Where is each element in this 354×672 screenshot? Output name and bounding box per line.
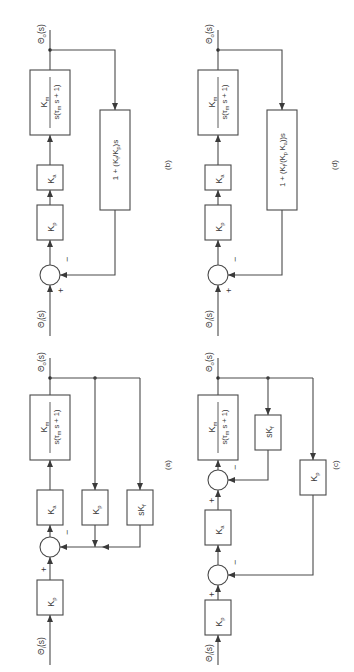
panel-d: Θi(s) Θo(s) + − Kp Ka Km s(τm s + 1) 1 +… <box>198 24 339 336</box>
minus-sign: − <box>230 465 240 470</box>
block-kp <box>37 205 63 240</box>
block-ka <box>37 490 63 525</box>
input-label: Θi(s) <box>204 644 215 662</box>
input-label: Θi(s) <box>36 310 47 328</box>
block-ka <box>205 510 231 545</box>
arrow-icon <box>228 272 235 278</box>
feedback-line <box>60 525 140 547</box>
tf-denominator: s(τm s + 1) <box>220 409 230 444</box>
arrow-icon <box>215 190 221 197</box>
plus-sign: + <box>207 592 217 597</box>
arrow-icon <box>47 190 53 197</box>
block-kp <box>205 600 231 635</box>
arrow-icon <box>215 545 221 552</box>
arrow-icon <box>92 483 98 490</box>
feedback-line <box>228 495 313 575</box>
caption-b: (b) <box>163 160 172 170</box>
arrow-icon <box>47 285 53 292</box>
arrow-icon <box>47 615 53 622</box>
arrow-icon <box>215 240 221 247</box>
block-kp <box>37 580 63 615</box>
plus-sign: + <box>207 498 217 503</box>
minus-sign: − <box>62 257 72 262</box>
arrow-icon <box>215 635 221 642</box>
caption-a: (a) <box>163 460 172 470</box>
summing-junction <box>208 265 228 285</box>
arrow-icon <box>228 477 235 483</box>
block-ka <box>37 165 63 190</box>
feedback-line <box>228 210 282 275</box>
arrow-icon <box>310 453 316 460</box>
arrow-icon <box>228 572 235 578</box>
output-label: Θo(s) <box>204 352 215 372</box>
output-label: Θo(s) <box>36 352 47 372</box>
arrow-icon <box>47 460 53 467</box>
minus-sign: − <box>230 560 240 565</box>
plus-sign: + <box>56 288 66 293</box>
block-diagram-figure: Θi(s) Θo(s) + − Kp Ka Km s(τm s + 1) 1 +… <box>0 0 354 672</box>
panel-c: Θi(s) Θo(s) + − + − Kp Ka Km s(τm s + 1)… <box>198 352 340 665</box>
block-kp <box>205 205 231 240</box>
arrow-icon <box>137 483 143 490</box>
block-feedback-label: 1 + (Kf/(Kp Ka))s <box>278 133 288 187</box>
caption-d: (d) <box>330 160 339 170</box>
arrow-icon <box>47 557 53 564</box>
tf-denominator: s(τm s + 1) <box>52 409 62 444</box>
tf-denominator: s(τm s + 1) <box>220 84 230 119</box>
arrow-icon <box>215 585 221 592</box>
minus-sign: − <box>230 257 240 262</box>
plus-sign: + <box>39 567 49 572</box>
summing-junction-outer <box>208 565 228 585</box>
arrow-icon <box>215 490 221 497</box>
arrow-icon <box>60 544 67 550</box>
arrow-icon <box>60 272 67 278</box>
block-feedback-kp <box>82 490 108 525</box>
arrow-icon <box>215 460 221 467</box>
arrow-icon <box>215 135 221 142</box>
output-label: Θo(s) <box>36 24 47 44</box>
feedback-line <box>60 210 115 275</box>
arrow-icon <box>279 103 285 110</box>
figure-canvas: Θi(s) Θo(s) + − Kp Ka Km s(τm s + 1) 1 +… <box>0 0 354 672</box>
plus-sign: + <box>224 288 234 293</box>
arrow-icon <box>215 285 221 292</box>
panel-b: Θi(s) Θo(s) + − Kp Ka Km s(τm s + 1) 1 +… <box>30 24 172 336</box>
block-feedback-label: 1 + (Kf/Kp)s <box>111 140 121 180</box>
summing-junction-inner <box>208 470 228 490</box>
output-label: Θo(s) <box>204 24 215 44</box>
arrow-icon <box>47 240 53 247</box>
summing-junction <box>40 265 60 285</box>
arrow-icon <box>47 525 53 532</box>
arrow-icon <box>47 135 53 142</box>
panel-a: Θi(s) Θo(s) + − Kp Ka Km s(τm s + 1) Kp … <box>30 352 172 665</box>
minus-sign: − <box>62 530 72 535</box>
arrow-icon <box>102 544 109 550</box>
block-ka <box>205 165 231 190</box>
arrow-icon <box>112 103 118 110</box>
arrow-icon <box>265 408 271 415</box>
tf-denominator: s(τm s + 1) <box>52 84 62 119</box>
input-label: Θi(s) <box>36 637 47 655</box>
summing-junction <box>40 537 60 557</box>
arrow-icon <box>92 540 98 547</box>
input-label: Θi(s) <box>204 310 215 328</box>
caption-c: (c) <box>331 460 340 470</box>
